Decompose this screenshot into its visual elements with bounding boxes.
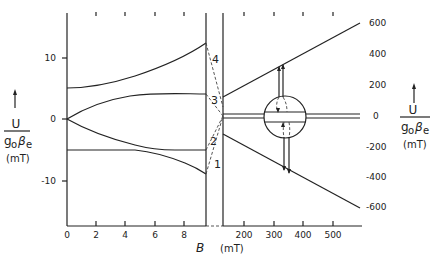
left-x-tick-2: 2 bbox=[93, 230, 99, 240]
left-x-tick-4: 4 bbox=[122, 230, 128, 240]
left-panel: 10 0 -10 0 2 4 6 8 bbox=[41, 12, 223, 240]
curve-label-1: 1 bbox=[214, 158, 221, 171]
x-axis-title: B bbox=[196, 241, 204, 255]
right-y-tick-600: 600 bbox=[369, 18, 386, 28]
curve-2 bbox=[67, 119, 206, 150]
x-axis-unit: (mT) bbox=[220, 243, 244, 254]
right-x-tick-200: 200 bbox=[235, 230, 252, 240]
curve-label-3: 3 bbox=[211, 94, 218, 107]
left-y-tick-neg10: -10 bbox=[41, 176, 56, 186]
left-y-tick-10: 10 bbox=[45, 53, 57, 63]
lower-level-line bbox=[223, 134, 360, 208]
svg-text:o: o bbox=[408, 125, 414, 136]
curve-4 bbox=[67, 43, 206, 88]
curve-label-2: 2 bbox=[210, 135, 217, 148]
svg-text:β: β bbox=[414, 120, 423, 134]
transition-arrows bbox=[276, 64, 291, 174]
left-x-tick-6: 6 bbox=[152, 230, 158, 240]
upper-level-line bbox=[223, 23, 360, 97]
left-x-tick-8: 8 bbox=[181, 230, 187, 240]
svg-text:(mT): (mT) bbox=[403, 139, 427, 150]
curve-1 bbox=[67, 150, 206, 174]
right-panel: 200 300 400 500 600 400 200 0 -200 -400 … bbox=[223, 12, 387, 240]
svg-text:e: e bbox=[26, 139, 32, 150]
right-y-tick-neg600: -600 bbox=[366, 202, 387, 212]
svg-text:U: U bbox=[409, 103, 418, 117]
curve-3 bbox=[67, 94, 206, 120]
right-y-tick-neg400: -400 bbox=[366, 172, 387, 182]
curve-label-4: 4 bbox=[212, 53, 219, 66]
right-y-tick-neg200: -200 bbox=[366, 142, 387, 152]
right-x-tick-300: 300 bbox=[265, 230, 282, 240]
svg-text:(mT): (mT) bbox=[6, 153, 30, 164]
right-y-title: U g o β e (mT) bbox=[400, 83, 430, 150]
energy-level-chart: 10 0 -10 0 2 4 6 8 4 3 2 1 200 3 bbox=[0, 0, 439, 261]
magnifier-circle bbox=[264, 96, 306, 138]
left-x-tick-0: 0 bbox=[64, 230, 70, 240]
right-x-tick-400: 400 bbox=[294, 230, 311, 240]
left-y-title: U g o β e (mT) bbox=[4, 89, 32, 164]
svg-text:e: e bbox=[423, 125, 429, 136]
right-x-tick-500: 500 bbox=[324, 230, 341, 240]
left-y-tick-0: 0 bbox=[50, 114, 56, 124]
right-y-tick-200: 200 bbox=[369, 80, 386, 90]
right-y-tick-400: 400 bbox=[369, 49, 386, 59]
svg-text:U: U bbox=[12, 117, 21, 131]
right-y-tick-0: 0 bbox=[373, 111, 379, 121]
svg-text:β: β bbox=[17, 134, 26, 148]
svg-text:o: o bbox=[11, 139, 17, 150]
